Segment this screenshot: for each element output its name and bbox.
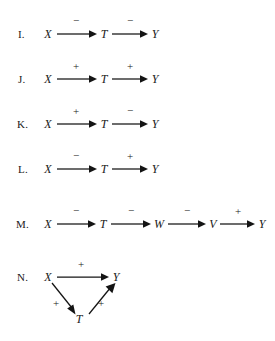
diagram-row-l: L. X T Y − +: [0, 135, 275, 180]
arrow-t-to-y: [112, 73, 148, 85]
edge-sign: +: [73, 106, 79, 117]
edge-sign: +: [73, 61, 79, 72]
arrow-w-to-v: [168, 218, 206, 230]
node-x: X: [44, 72, 51, 87]
diagram-row-m: M. X T W V Y − − − +: [0, 185, 275, 235]
row-label-m: M.: [16, 218, 29, 230]
edge-sign: +: [127, 61, 133, 72]
node-t: T: [101, 27, 108, 42]
arrow-t-to-y: [112, 28, 148, 40]
arrow-x-to-t: [57, 118, 97, 130]
arrow-t-to-y: [112, 118, 148, 130]
node-t: T: [101, 117, 108, 132]
node-y: Y: [152, 27, 159, 42]
edge-sign: +: [235, 206, 241, 217]
edge-sign-x-to-y: +: [78, 259, 84, 270]
edge-sign: −: [73, 205, 79, 216]
diagram-row-i: I. X T Y − −: [0, 0, 275, 45]
node-t: T: [100, 217, 107, 232]
edge-sign: +: [127, 151, 133, 162]
edge-sign: −: [184, 205, 190, 216]
arrow-x-to-t: [52, 283, 82, 315]
arrow-x-to-t: [57, 163, 97, 175]
node-y: Y: [259, 217, 266, 232]
node-x: X: [44, 217, 51, 232]
arrow-v-to-y: [220, 218, 255, 230]
diagram-row-k: K. X T Y + −: [0, 90, 275, 135]
row-label-i: I.: [18, 28, 25, 40]
node-y: Y: [152, 72, 159, 87]
arrow-x-to-t: [57, 28, 97, 40]
row-label-n: N.: [17, 271, 28, 283]
node-x: X: [44, 162, 51, 177]
arrow-t-to-y: [86, 283, 118, 315]
node-t: T: [101, 72, 108, 87]
edge-sign: −: [127, 105, 133, 116]
arrow-x-to-t: [57, 218, 96, 230]
arrow-t-to-y: [112, 163, 148, 175]
causal-diagram-figure: I. X T Y − − J. X T Y + + K. X T Y + −: [0, 0, 275, 341]
row-label-l: L.: [18, 163, 28, 175]
row-label-j: J.: [18, 73, 25, 85]
diagram-row-n: N. X Y T + + +: [0, 262, 275, 341]
diagram-row-j: J. X T Y + +: [0, 45, 275, 90]
node-x: X: [44, 27, 51, 42]
node-x: X: [44, 270, 51, 285]
row-label-k: K.: [17, 118, 28, 130]
node-y: Y: [152, 117, 159, 132]
arrow-x-to-y: [57, 271, 109, 283]
edge-sign: −: [73, 150, 79, 161]
node-v: V: [209, 217, 216, 232]
node-x: X: [44, 117, 51, 132]
node-y: Y: [152, 162, 159, 177]
arrow-x-to-t: [57, 73, 97, 85]
edge-sign: −: [73, 15, 79, 26]
edge-sign: −: [127, 15, 133, 26]
node-w: W: [154, 217, 164, 232]
arrow-t-to-w: [111, 218, 151, 230]
node-t: T: [101, 162, 108, 177]
edge-sign: −: [128, 205, 134, 216]
